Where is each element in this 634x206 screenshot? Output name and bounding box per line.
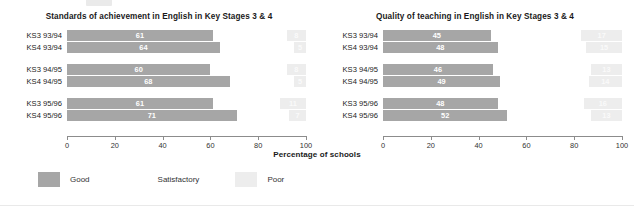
bar-segment-poor: 7 <box>289 110 306 121</box>
bar-segment-satisfactory <box>210 64 286 75</box>
axis-caption: Percentage of schools <box>0 150 634 159</box>
bar-segment-satisfactory <box>500 76 588 87</box>
bar-row: 4816 <box>383 98 622 109</box>
bar-segment-good: 48 <box>383 42 498 53</box>
axis-tick-label: 100 <box>616 141 628 150</box>
axis-tick-label: 80 <box>254 141 262 150</box>
category-labels-teaching: KS3 93/94KS4 93/94KS3 94/95KS4 94/95KS3 … <box>320 30 382 136</box>
bar-value-label: 61 <box>67 30 213 41</box>
bar-value-label: 16 <box>584 98 622 109</box>
bar-segment-poor: 14 <box>589 76 622 87</box>
axis-tick <box>115 136 116 140</box>
bar-row: 685 <box>67 76 306 87</box>
axis-tick-label: 80 <box>570 141 578 150</box>
legend-item-satisfactory[interactable]: Satisfactory <box>126 172 200 187</box>
bottom-divider <box>0 205 634 206</box>
bar-segment-poor: 17 <box>581 30 622 41</box>
axis-tick <box>210 136 211 140</box>
bar-row: 4613 <box>383 64 622 75</box>
bar-segment-satisfactory <box>491 30 582 41</box>
legend-label: Satisfactory <box>158 175 200 184</box>
legend-swatch-good <box>38 172 60 187</box>
bar-value-label: 11 <box>280 98 306 109</box>
bar-segment-good: 61 <box>67 98 213 109</box>
category-label: KS4 95/96 <box>27 111 62 120</box>
axis-tick <box>258 136 259 140</box>
bar-segment-good: 45 <box>383 30 491 41</box>
bar-segment-poor: 13 <box>591 110 622 121</box>
bar-segment-satisfactory <box>237 110 290 121</box>
axis-tick-label: 0 <box>65 141 69 150</box>
chart-panel-standards: Standards of achievement in English in K… <box>4 12 314 162</box>
legend-swatch-poor <box>235 172 257 187</box>
bar-segment-satisfactory <box>230 76 295 87</box>
category-label: KS4 94/95 <box>27 77 62 86</box>
bar-value-label: 14 <box>589 76 622 87</box>
category-label: KS3 94/95 <box>27 65 62 74</box>
axis-tick <box>574 136 575 140</box>
bar-segment-poor: 5 <box>294 76 306 87</box>
bar-segment-satisfactory <box>493 64 591 75</box>
bar-segment-poor: 13 <box>591 64 622 75</box>
bar-row: 608 <box>67 64 306 75</box>
legend-swatch-satisfactory <box>126 172 148 187</box>
bar-segment-good: 61 <box>67 30 213 41</box>
bar-value-label: 71 <box>67 110 237 121</box>
legend-label: Poor <box>267 175 284 184</box>
axis-tick <box>431 136 432 140</box>
bar-row: 4914 <box>383 76 622 87</box>
bar-segment-good: 64 <box>67 42 220 53</box>
category-label: KS3 95/96 <box>27 99 62 108</box>
bar-value-label: 15 <box>586 42 622 53</box>
bar-segment-satisfactory <box>220 42 294 53</box>
category-label: KS4 93/94 <box>343 43 378 52</box>
axis-tick <box>306 136 307 140</box>
bar-value-label: 5 <box>294 42 306 53</box>
bar-row: 5213 <box>383 110 622 121</box>
bar-segment-poor: 5 <box>294 42 306 53</box>
bar-value-label: 7 <box>289 110 306 121</box>
bar-segment-satisfactory <box>213 30 287 41</box>
bar-segment-poor: 8 <box>287 64 306 75</box>
figure-root: Standards of achievement in English in K… <box>0 0 634 206</box>
axis-tick <box>526 136 527 140</box>
plot-area-teaching: 451748154613491448165213 <box>383 30 622 136</box>
category-labels-standards: KS3 93/94KS4 93/94KS3 94/95KS4 94/95KS3 … <box>4 30 66 136</box>
bar-row: 717 <box>67 110 306 121</box>
bar-segment-satisfactory <box>213 98 280 109</box>
bar-value-label: 48 <box>383 98 498 109</box>
category-label: KS3 93/94 <box>27 31 62 40</box>
bar-segment-poor: 15 <box>586 42 622 53</box>
bar-segment-good: 48 <box>383 98 498 109</box>
bar-value-label: 45 <box>383 30 491 41</box>
legend-label: Good <box>70 175 90 184</box>
bar-row: 4517 <box>383 30 622 41</box>
bar-segment-poor: 11 <box>280 98 306 109</box>
legend-item-poor[interactable]: Poor <box>235 172 284 187</box>
bar-row: 645 <box>67 42 306 53</box>
bar-segment-satisfactory <box>498 42 586 53</box>
x-axis-teaching: 020406080100 <box>383 136 622 137</box>
axis-tick-label: 40 <box>474 141 482 150</box>
axis-tick <box>163 136 164 140</box>
bar-segment-good: 52 <box>383 110 507 121</box>
bar-row: 4815 <box>383 42 622 53</box>
category-label: KS4 94/95 <box>343 77 378 86</box>
chart-legend: GoodSatisfactoryPoor <box>38 172 320 187</box>
bar-value-label: 48 <box>383 42 498 53</box>
legend-item-good[interactable]: Good <box>38 172 90 187</box>
category-label: KS3 95/96 <box>343 99 378 108</box>
bar-segment-good: 68 <box>67 76 230 87</box>
top-cropped-artifact <box>86 0 112 6</box>
axis-tick-label: 20 <box>427 141 435 150</box>
axis-tick-label: 60 <box>206 141 214 150</box>
bar-segment-poor: 16 <box>584 98 622 109</box>
axis-tick-label: 0 <box>381 141 385 150</box>
bar-segment-good: 60 <box>67 64 210 75</box>
axis-tick <box>479 136 480 140</box>
bar-segment-good: 46 <box>383 64 493 75</box>
bar-segment-good: 71 <box>67 110 237 121</box>
bar-value-label: 68 <box>67 76 230 87</box>
axis-tick <box>67 136 68 140</box>
chart-title-standards: Standards of achievement in English in K… <box>4 12 314 21</box>
